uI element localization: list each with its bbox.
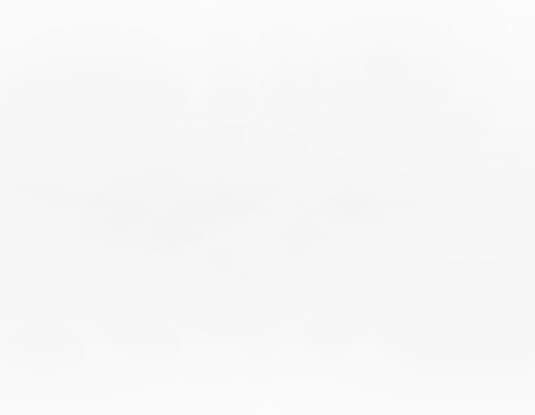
legend-item: Anteil an TV <box>457 169 517 182</box>
bar-value-label: 7,5 % <box>88 152 126 163</box>
y-tick-label: 10 % <box>10 111 60 122</box>
bar-value-label: 7,6 % <box>194 150 232 161</box>
bar-value-label: 7,4 % <box>141 154 179 165</box>
legend-label: Anteil an VU <box>464 182 517 195</box>
x-axis-category-label: Straftaten gg. d. pers. Freiheit <box>350 321 412 383</box>
bar-vu <box>416 239 436 311</box>
bar-vu <box>203 163 223 311</box>
bar-vu <box>97 165 117 311</box>
x-tick-mark <box>283 312 284 317</box>
bar-value-label: 3,4 % <box>248 232 286 243</box>
bar-tv <box>395 171 415 311</box>
bar-vu <box>150 167 170 311</box>
legend-label: Anteil an TV <box>464 169 516 182</box>
bar-tv <box>182 146 202 311</box>
x-tick-mark <box>389 312 390 317</box>
legend-swatch-icon <box>457 174 461 178</box>
x-axis-line <box>69 311 443 312</box>
y-tick-label: 12 % <box>10 72 60 83</box>
bar-vu <box>363 237 383 311</box>
bar-factor-label: ×1,4 <box>286 162 312 172</box>
x-tick-mark <box>176 312 177 317</box>
bar-factor-label: ×1,7 <box>126 72 152 82</box>
bar-value-label: 5,8 % <box>227 185 265 196</box>
bar-value-label: 3,7 % <box>407 226 445 237</box>
x-tick-mark <box>336 312 337 317</box>
x-tick-mark <box>123 312 124 317</box>
y-tick-label: 14 % <box>10 33 60 44</box>
x-tick-mark <box>70 312 71 317</box>
x-axis-category-label: Sonstige Straftatbestände (StGB) <box>457 321 528 392</box>
x-axis-category-label: Straftaten gg. d. Leben <box>244 321 306 383</box>
x-tick-mark <box>442 312 443 317</box>
y-tick-label: 2 % <box>10 266 60 277</box>
x-tick-mark <box>229 312 230 317</box>
bar-value-label: 8,9 % <box>333 125 371 136</box>
legend-swatch-icon <box>457 187 461 191</box>
x-axis-category-label: Straftaten gg. d. körperl. Unvers. <box>297 321 359 383</box>
bar-vu <box>310 198 330 311</box>
bar-vu <box>257 245 277 311</box>
plot-area: 7,6 %×1,07,5 %12,5 %×1,77,4 %8,5 %×1,17,… <box>70 39 442 311</box>
chart-frame: 0 %2 %4 %6 %8 %10 %12 %14 % 7,6 %×1,07,5… <box>9 8 526 401</box>
bar-tv <box>76 163 96 311</box>
bar-value-label: 7,2 % <box>386 158 424 169</box>
bar-tv <box>236 198 256 311</box>
legend-item: Anteil an VU <box>457 182 517 195</box>
y-tick-label: 4 % <box>10 227 60 238</box>
bar-tv <box>129 68 149 311</box>
y-tick-label: 0 % <box>10 305 60 316</box>
bar-factor-label: ×1,0 <box>73 167 99 177</box>
bar-value-label: 7,9 % <box>280 145 318 156</box>
bar-value-label: 8,5 % <box>173 133 211 144</box>
bar-value-label: 5,8 % <box>301 185 339 196</box>
chart-legend: Anteil an TVAnteil an VU <box>457 169 517 195</box>
y-tick-label: 8 % <box>10 150 60 161</box>
bar-factor-label: ×2,4 <box>339 142 365 152</box>
bar-value-label: 3,8 % <box>354 224 392 235</box>
chart-figure: 0 %2 %4 %6 %8 %10 %12 %14 % 7,6 %×1,07,5… <box>0 0 535 415</box>
bar-factor-label: ×1,9 <box>392 175 418 185</box>
x-axis-category-label: Eigentums- u. Vermögens- delikte <box>401 321 465 385</box>
bar-tv <box>289 158 309 311</box>
bar-value-label: 12,5 % <box>120 55 158 66</box>
bar-factor-label: ×1,7 <box>233 202 259 212</box>
y-tick-label: 6 % <box>10 188 60 199</box>
